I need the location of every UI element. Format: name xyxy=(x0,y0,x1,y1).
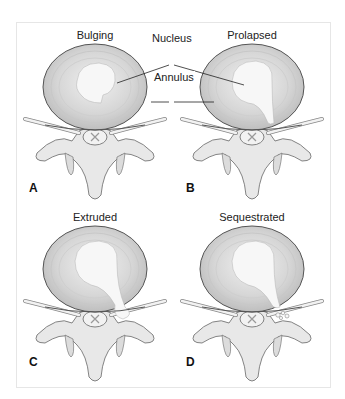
figure-frame: Bulging A Prolapsed B xyxy=(16,22,331,388)
panel-extruded: Extruded C xyxy=(17,205,173,387)
disc-bulging-illustration xyxy=(17,23,173,205)
panel-letter: C xyxy=(29,355,38,369)
disc-extruded-illustration xyxy=(17,205,173,387)
callout-annulus: Annulus xyxy=(153,71,195,83)
panel-title: Extruded xyxy=(17,211,173,223)
panel-letter: A xyxy=(29,181,38,195)
panel-letter: D xyxy=(186,355,195,369)
panel-prolapsed: Prolapsed B xyxy=(174,23,330,205)
panel-sequestrated: Sequestrated D xyxy=(174,205,330,387)
panel-title: Prolapsed xyxy=(174,29,330,41)
callout-nucleus: Nucleus xyxy=(151,32,193,44)
panel-letter: B xyxy=(186,181,195,195)
panel-title: Sequestrated xyxy=(174,211,330,223)
disc-sequestrated-illustration xyxy=(174,205,330,387)
disc-prolapsed-illustration xyxy=(174,23,330,205)
panel-title: Bulging xyxy=(17,29,173,41)
panel-bulging: Bulging A xyxy=(17,23,173,205)
